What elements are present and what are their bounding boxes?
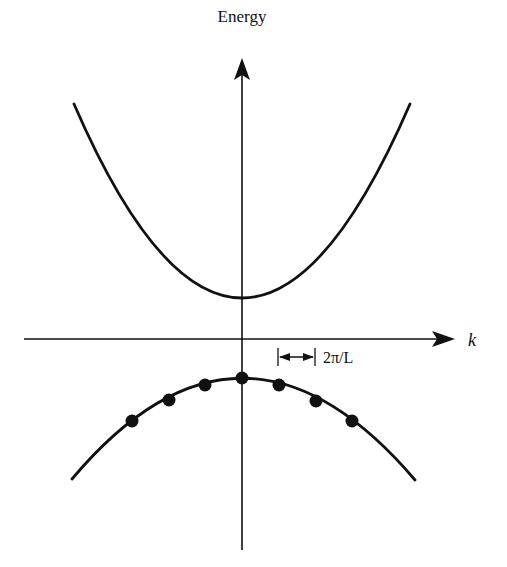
state-dot: [310, 395, 323, 408]
state-dot: [163, 394, 176, 407]
spacing-marker: [278, 348, 315, 366]
band-diagram: Energy k 2π/L: [0, 0, 507, 567]
state-dot: [236, 372, 249, 385]
spacing-arrow-left-icon: [279, 353, 290, 361]
valence-band-curve: [72, 378, 415, 480]
k-axis-label: k: [468, 330, 477, 350]
state-dot: [346, 415, 359, 428]
state-dot: [273, 379, 286, 392]
state-dot: [199, 379, 212, 392]
spacing-label: 2π/L: [323, 349, 353, 366]
state-dot: [126, 415, 139, 428]
energy-axis-label: Energy: [218, 7, 267, 26]
spacing-arrow-right-icon: [303, 353, 314, 361]
